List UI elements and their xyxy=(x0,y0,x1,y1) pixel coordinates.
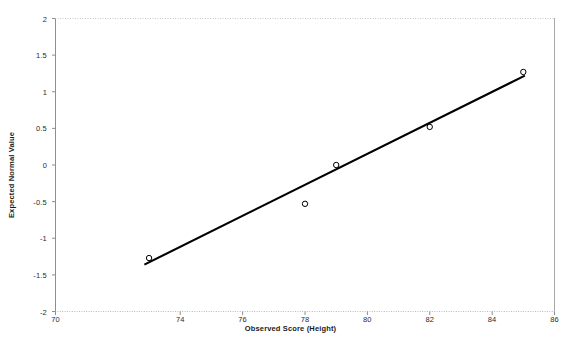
reference-fit-line xyxy=(144,76,524,265)
x-tick-label: 78 xyxy=(301,315,310,324)
reference-line xyxy=(144,76,524,265)
data-point-marker xyxy=(427,124,432,129)
y-tick-label: 1 xyxy=(0,87,47,96)
x-tick-label: 86 xyxy=(550,315,559,324)
data-point-marker xyxy=(302,201,307,206)
data-point-marker xyxy=(521,69,526,74)
x-tick-label: 84 xyxy=(488,315,497,324)
plot-frame xyxy=(55,18,555,312)
y-tick-label: -1.5 xyxy=(0,270,47,279)
y-tick-marks xyxy=(52,19,56,312)
data-point-marker xyxy=(146,255,151,260)
x-tick-label: 80 xyxy=(363,315,372,324)
data-point-markers xyxy=(146,69,526,260)
x-tick-label: 70 xyxy=(51,315,60,324)
x-tick-label: 82 xyxy=(425,315,434,324)
x-tick-label: 74 xyxy=(176,315,185,324)
normal-probability-plot: -2-1.5-1-0.500.511.52 7074767880828486 O… xyxy=(0,0,581,346)
x-axis-title: Observed Score (Height) xyxy=(245,324,336,333)
x-tick-label: 76 xyxy=(238,315,247,324)
y-tick-label: 2 xyxy=(0,14,47,23)
y-axis-title: Expected Normal Value xyxy=(7,132,16,218)
y-tick-label: -1 xyxy=(0,234,47,243)
plot-canvas xyxy=(0,0,581,346)
y-tick-label: -2 xyxy=(0,307,47,316)
y-tick-label: 1.5 xyxy=(0,51,47,60)
data-point-marker xyxy=(333,162,338,167)
